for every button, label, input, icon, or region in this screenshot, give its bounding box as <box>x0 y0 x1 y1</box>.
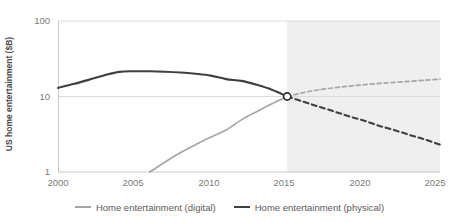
legend-label-digital: Home entertainment (digital) <box>96 202 216 213</box>
chart-legend: Home entertainment (digital) Home entert… <box>0 198 459 216</box>
legend-swatch-digital-icon <box>75 206 91 208</box>
legend-item-digital[interactable]: Home entertainment (digital) <box>75 202 216 213</box>
series-line-physical-actual <box>58 71 287 96</box>
crossover-marker[interactable] <box>284 93 291 100</box>
legend-label-physical: Home entertainment (physical) <box>255 202 384 213</box>
crossover-marker-layer <box>284 93 291 100</box>
legend-item-physical[interactable]: Home entertainment (physical) <box>234 202 384 213</box>
chart-container: US home entertainment ($B) 100 10 1 2000… <box>0 0 459 222</box>
legend-swatch-physical-icon <box>234 206 250 208</box>
series-line-digital-actual <box>150 97 288 173</box>
plot-area <box>0 0 459 222</box>
